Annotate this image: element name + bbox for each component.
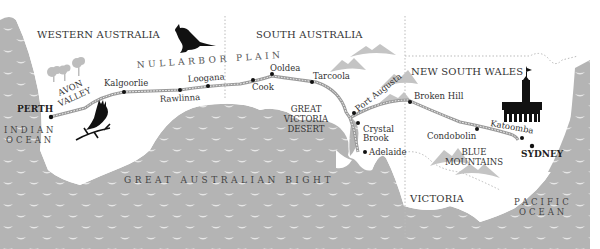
station-broken-hill[interactable]	[408, 100, 412, 104]
label-new-south-wales: NEW SOUTH WALES	[411, 66, 523, 77]
station-adelaide[interactable]	[363, 150, 367, 154]
label-rawlinna[interactable]: Rawlinna	[160, 92, 201, 104]
svg-text:Brook: Brook	[363, 133, 390, 143]
station-port-augusta[interactable]	[352, 111, 356, 115]
label-great-australian-bight: GREAT AUSTRALIAN BIGHT	[124, 175, 334, 185]
label-adelaide[interactable]: Adelaide	[368, 147, 407, 157]
label-indian-ocean: INDIAN OCEAN	[4, 125, 57, 145]
station-sydney[interactable]	[530, 144, 534, 148]
label-western-australia: WESTERN AUSTRALIA	[37, 29, 161, 40]
svg-text:OCEAN: OCEAN	[519, 207, 567, 217]
label-sydney[interactable]: SYDNEY	[521, 149, 564, 159]
railway-route-map: WESTERN AUSTRALIA SOUTH AUSTRALIA NEW SO…	[0, 0, 600, 249]
label-perth[interactable]: PERTH	[17, 104, 54, 114]
label-tarcoola[interactable]: Tarcoola	[313, 71, 350, 81]
station-perth[interactable]	[49, 115, 53, 119]
station-katoomba[interactable]	[520, 136, 524, 140]
svg-text:GREAT: GREAT	[291, 104, 322, 114]
svg-text:MOUNTAINS: MOUNTAINS	[445, 157, 503, 167]
label-pacific-ocean: PACIFIC OCEAN	[514, 197, 572, 217]
label-broken-hill[interactable]: Broken Hill	[414, 91, 464, 101]
svg-text:PACIFIC: PACIFIC	[514, 197, 572, 207]
station-crystal-brook[interactable]	[356, 121, 360, 125]
station-kalgoorlie[interactable]	[122, 90, 126, 94]
label-ooldea[interactable]: Ooldea	[270, 63, 300, 73]
label-victoria: VICTORIA	[409, 193, 465, 204]
svg-text:VICTORIA: VICTORIA	[283, 114, 329, 124]
label-cook[interactable]: Cook	[252, 82, 275, 92]
label-kalgoorlie[interactable]: Kalgoorlie	[104, 78, 148, 88]
svg-text:OCEAN: OCEAN	[6, 135, 54, 145]
label-condobolin[interactable]: Condobolin	[427, 131, 477, 141]
svg-text:DESERT: DESERT	[288, 124, 325, 134]
label-south-australia: SOUTH AUSTRALIA	[256, 29, 363, 40]
station-loongana[interactable]	[206, 84, 210, 88]
svg-text:BLUE: BLUE	[462, 147, 487, 157]
station-rawlinna[interactable]	[178, 88, 182, 92]
svg-text:INDIAN: INDIAN	[4, 125, 57, 135]
